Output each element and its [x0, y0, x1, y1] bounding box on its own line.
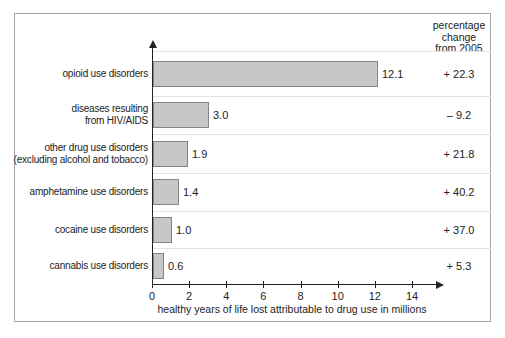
tick-label: 4 — [215, 291, 237, 302]
tick-mark — [375, 281, 376, 288]
bar-value-label: 0.6 — [168, 261, 183, 272]
pct-change-value: + 40.2 — [427, 173, 491, 211]
tick-label: 8 — [290, 291, 312, 302]
bar — [153, 102, 209, 128]
bar-value-label: 1.9 — [192, 149, 207, 160]
bar-value-label: 1.0 — [176, 225, 191, 236]
tick-mark — [189, 281, 190, 288]
tick-label: 14 — [401, 291, 423, 302]
category-label-line: cocaine use disorders — [55, 224, 148, 236]
bar-value-label: 1.4 — [183, 187, 198, 198]
pct-column-header: percentage change from 2005 — [427, 20, 491, 55]
x-axis-arrow-icon — [436, 281, 444, 289]
tick-label: 10 — [327, 291, 349, 302]
category-label: diseases resultingfrom HIV/AIDS — [8, 96, 148, 134]
pct-change-value: + 37.0 — [427, 211, 491, 248]
category-label-line: other drug use disorders — [44, 142, 148, 154]
tick-mark — [338, 281, 339, 288]
pct-change-value: + 21.8 — [427, 134, 491, 173]
bar — [153, 179, 179, 205]
category-label: cocaine use disorders — [8, 211, 148, 248]
category-label: cannabis use disorders — [8, 248, 148, 284]
y-axis-arrow-icon — [149, 40, 157, 48]
bar-value-label: 12.1 — [382, 69, 403, 80]
x-axis-line — [152, 284, 436, 285]
tick-mark — [226, 281, 227, 288]
tick-mark — [412, 281, 413, 288]
category-label-line: from HIV/AIDS — [85, 115, 148, 127]
bar — [153, 217, 172, 243]
category-label: amphetamine use disorders — [8, 173, 148, 211]
bar-value-label: 3.0 — [213, 110, 228, 121]
tick-label: 12 — [364, 291, 386, 302]
category-label: other drug use disorders(excluding alcoh… — [8, 134, 148, 173]
category-label-line: cannabis use disorders — [50, 260, 148, 272]
category-label-line: opioid use disorders — [63, 68, 149, 80]
category-label-line: diseases resulting — [72, 103, 148, 115]
tick-mark — [301, 281, 302, 288]
pct-change-value: – 9.2 — [427, 96, 491, 134]
bar — [153, 141, 188, 167]
drug-use-bar-chart: percentage change from 2005 opioid use d… — [0, 0, 505, 338]
category-label: opioid use disorders — [8, 51, 148, 96]
tick-label: 0 — [141, 291, 163, 302]
category-label-line: (excluding alcohol and tobacco) — [14, 154, 148, 166]
tick-mark — [152, 281, 153, 288]
y-axis-line — [152, 46, 153, 284]
category-label-line: amphetamine use disorders — [30, 186, 148, 198]
x-axis-title: healthy years of life lost attributable … — [152, 303, 432, 315]
pct-change-value: + 5.3 — [427, 248, 491, 284]
tick-label: 6 — [252, 291, 274, 302]
tick-label: 2 — [178, 291, 200, 302]
pct-change-value: + 22.3 — [427, 51, 491, 96]
tick-mark — [263, 281, 264, 288]
bar — [153, 61, 378, 87]
bar — [153, 253, 164, 279]
